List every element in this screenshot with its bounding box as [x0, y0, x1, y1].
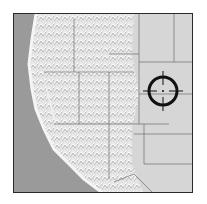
relief-map [13, 13, 193, 193]
map-canvas [14, 14, 193, 193]
